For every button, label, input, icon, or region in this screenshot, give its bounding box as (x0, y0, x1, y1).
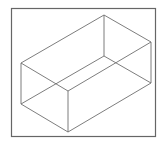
diagram-frame (12, 9, 156, 137)
cuboid-edge-bottom_left-bottom_front (21, 104, 68, 132)
cuboid-edges (21, 15, 151, 132)
cuboid-edge-bottom_back-bottom_left (21, 56, 104, 104)
cuboid-diagram (0, 0, 166, 148)
cuboid-edge-top_back-top_right (104, 15, 151, 42)
cuboid-edge-top_left-top_front (21, 63, 68, 91)
cuboid-edge-top_back-top_left (21, 15, 104, 63)
cuboid-edge-top_front-top_right (68, 42, 151, 91)
cuboid-edge-bottom_front-bottom_right (68, 83, 151, 132)
cuboid-edge-bottom_back-bottom_right (104, 56, 151, 83)
